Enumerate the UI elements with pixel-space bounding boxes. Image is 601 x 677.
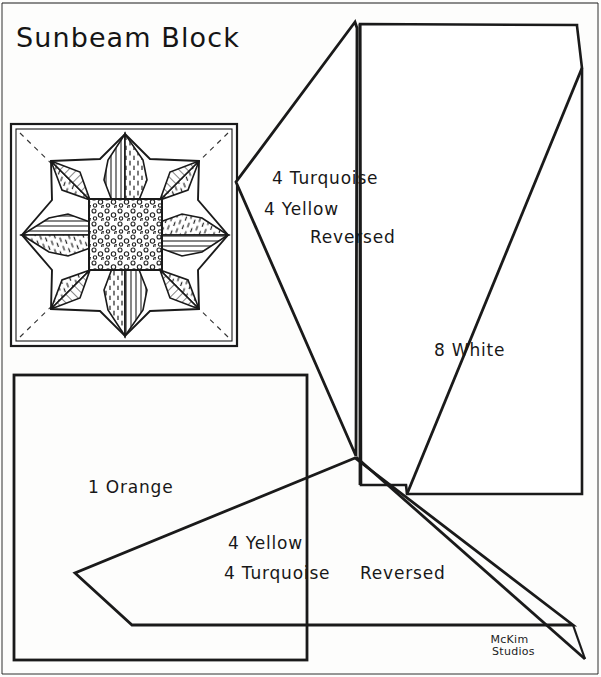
piece-label-turquoise-line1: 4 Turquoise [272,168,378,188]
piece-orange-shape [14,375,307,660]
signature-line2: Studios [492,646,535,658]
studio-signature: McKim Studios [484,634,535,658]
piece-white-shape [360,24,582,494]
piece-label-yellow-line3: Reversed [360,563,446,583]
piece-label-turquoise-line2: 4 Yellow [264,199,339,219]
piece-label-orange: 1 Orange [88,477,173,497]
pattern-sheet: Sunbeam Block 4 Turquoise 4 Yellow Rever… [0,0,601,677]
piece-label-turquoise-line3: Reversed [310,227,396,247]
piece-label-yellow-line1: 4 Yellow [228,533,303,553]
block-center-square [89,199,162,270]
piece-label-yellow-line2: 4 Turquoise [224,563,330,583]
page-title: Sunbeam Block [16,22,240,53]
block-diagram-group [11,124,237,346]
piece-label-white: 8 White [434,340,505,360]
